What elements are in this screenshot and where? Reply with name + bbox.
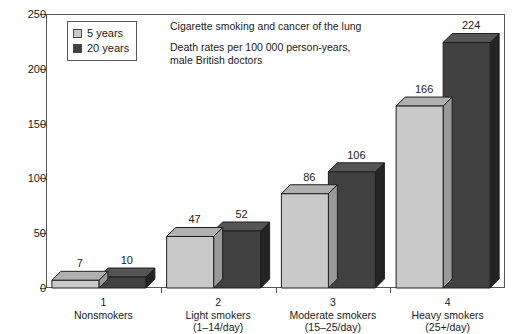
legend-swatch-20-years bbox=[73, 44, 82, 53]
y-tick-label: 100 bbox=[12, 173, 46, 184]
x-group-label-1: 1Nonsmokers bbox=[46, 296, 161, 321]
x-group-number: 2 bbox=[161, 296, 276, 309]
x-group-sublabel: (15–25/day) bbox=[276, 321, 391, 334]
value-label-20-years-group-1: 10 bbox=[121, 255, 133, 266]
value-label-5-years-group-4: 166 bbox=[415, 84, 433, 95]
value-label-20-years-group-4: 224 bbox=[462, 20, 480, 31]
value-label-5-years-group-3: 86 bbox=[303, 172, 315, 183]
value-label-5-years-group-1: 7 bbox=[77, 258, 83, 269]
y-tick-label: 150 bbox=[12, 119, 46, 130]
x-group-name: Moderate smokers bbox=[276, 309, 391, 322]
y-tick-label: 250 bbox=[12, 9, 46, 20]
x-group-number: 1 bbox=[46, 296, 161, 309]
legend-item-5-years: 5 years bbox=[73, 26, 129, 41]
x-tick-mark bbox=[390, 288, 391, 293]
x-group-label-3: 3Moderate smokers(15–25/day) bbox=[276, 296, 391, 334]
chart-subtitle-annotation: Death rates per 100 000 person-years, ma… bbox=[170, 41, 350, 67]
x-group-sublabel: (25+/day) bbox=[390, 321, 505, 334]
legend-item-20-years: 20 years bbox=[73, 41, 129, 56]
x-tick-mark bbox=[276, 288, 277, 293]
x-group-name: Light smokers bbox=[161, 309, 276, 322]
legend-swatch-5-years bbox=[73, 29, 82, 38]
x-group-sublabel: (1–14/day) bbox=[161, 321, 276, 334]
legend-label-20-years: 20 years bbox=[87, 43, 129, 54]
x-group-name: Heavy smokers bbox=[390, 309, 505, 322]
chart-container: 250200150100500 710475286106166224 5 yea… bbox=[0, 0, 515, 334]
y-tick-label: 200 bbox=[12, 64, 46, 75]
x-tick-mark bbox=[161, 288, 162, 293]
legend: 5 years 20 years bbox=[67, 21, 137, 61]
x-group-name: Nonsmokers bbox=[46, 309, 161, 322]
y-tick-label: 50 bbox=[12, 228, 46, 239]
value-label-5-years-group-2: 47 bbox=[189, 214, 201, 225]
x-group-number: 4 bbox=[390, 296, 505, 309]
x-group-label-2: 2Light smokers(1–14/day) bbox=[161, 296, 276, 334]
x-group-label-4: 4Heavy smokers(25+/day) bbox=[390, 296, 505, 334]
value-label-20-years-group-3: 106 bbox=[347, 150, 365, 161]
value-label-20-years-group-2: 52 bbox=[236, 209, 248, 220]
x-group-number: 3 bbox=[276, 296, 391, 309]
y-tick-label: 0 bbox=[12, 283, 46, 294]
x-axis: 1Nonsmokers2Light smokers(1–14/day)3Mode… bbox=[46, 288, 505, 334]
chart-title-annotation: Cigarette smoking and cancer of the lung bbox=[170, 20, 361, 33]
legend-label-5-years: 5 years bbox=[87, 28, 123, 39]
y-axis: 250200150100500 bbox=[0, 0, 46, 334]
